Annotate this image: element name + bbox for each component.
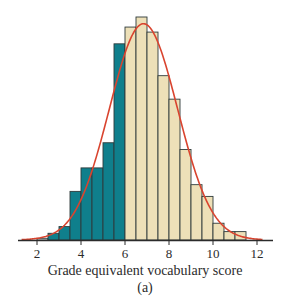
x-axis-title: Grade equivalent vocabulary score	[48, 263, 243, 278]
histogram-bar	[169, 99, 180, 240]
panel-label: (a)	[137, 280, 153, 296]
histogram-chart: 24681012 Grade equivalent vocabulary sco…	[0, 0, 288, 301]
x-tick-label: 2	[34, 246, 41, 261]
x-tick-label: 12	[251, 246, 264, 261]
histogram-bar	[158, 76, 169, 240]
x-tick-label: 10	[207, 246, 220, 261]
histogram-bar	[125, 27, 136, 240]
histogram-bar	[191, 185, 202, 240]
x-tick-label: 6	[122, 246, 129, 261]
histogram-bar	[92, 168, 103, 240]
histogram-bar	[180, 149, 191, 240]
histogram-bar	[81, 168, 92, 240]
x-axis-ticks: 24681012	[34, 241, 264, 262]
x-tick-label: 8	[166, 246, 173, 261]
histogram-bar	[136, 17, 147, 240]
histogram-bar	[103, 143, 114, 240]
x-tick-label: 4	[78, 246, 85, 261]
histogram-bars	[37, 17, 246, 240]
histogram-bar	[147, 32, 158, 240]
